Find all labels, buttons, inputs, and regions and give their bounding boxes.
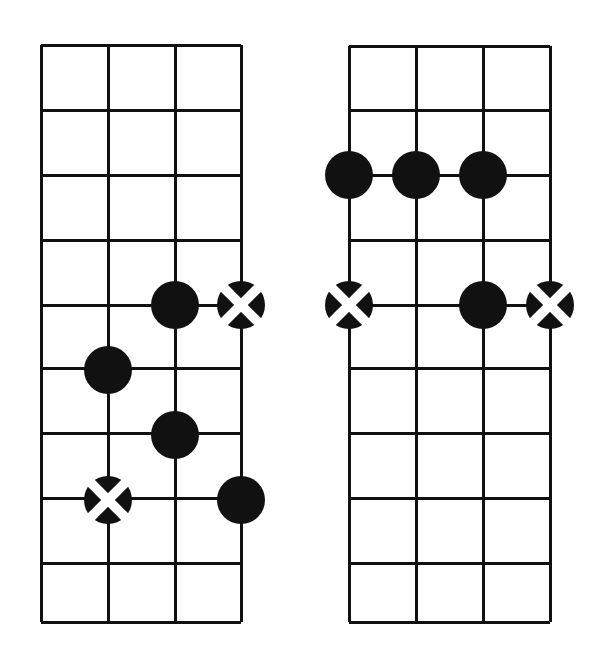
finger-marker-L6[interactable] — [217, 476, 265, 524]
finger-marker-L2[interactable] — [217, 281, 265, 329]
marker-filled-dot[interactable] — [392, 151, 440, 199]
marker-filled-dot[interactable] — [151, 281, 199, 329]
finger-marker-L5[interactable] — [84, 476, 132, 524]
marker-filled-dot[interactable] — [84, 346, 132, 394]
finger-marker-R1[interactable] — [325, 151, 373, 199]
finger-marker-R3[interactable] — [459, 151, 507, 199]
right-chord-diagram — [325, 46, 574, 622]
finger-marker-R2[interactable] — [392, 151, 440, 199]
finger-marker-R4[interactable] — [325, 281, 373, 329]
marker-filled-dot[interactable] — [459, 151, 507, 199]
chord-diagram-canvas — [0, 0, 603, 658]
finger-marker-L3[interactable] — [84, 346, 132, 394]
finger-marker-L4[interactable] — [151, 411, 199, 459]
marker-filled-dot[interactable] — [151, 411, 199, 459]
marker-filled-dot[interactable] — [325, 151, 373, 199]
marker-filled-dot[interactable] — [217, 476, 265, 524]
finger-marker-L1[interactable] — [151, 281, 199, 329]
finger-marker-R5[interactable] — [459, 281, 507, 329]
finger-marker-R6[interactable] — [526, 281, 574, 329]
left-chord-diagram — [41, 45, 265, 622]
marker-filled-dot[interactable] — [459, 281, 507, 329]
chord-diagrams-svg — [0, 0, 603, 658]
